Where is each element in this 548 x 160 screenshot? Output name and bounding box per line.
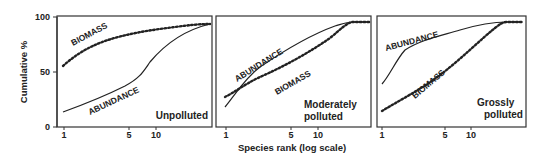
abundance-label: ABUNDANCE bbox=[384, 29, 440, 53]
xtick-5: 5 bbox=[126, 130, 131, 140]
xtick-5: 5 bbox=[288, 130, 293, 140]
condition-label-line1: Grossly bbox=[477, 97, 515, 108]
y-axis: 100 50 0 Cumulative % bbox=[18, 12, 57, 132]
biomass-label: BIOMASS bbox=[69, 20, 109, 48]
panel-moderately-polluted: 1 5 10 ABUNDANCE BIOMASS Moderately poll… bbox=[216, 16, 371, 140]
xtick-10: 10 bbox=[466, 130, 476, 140]
panel-grossly-polluted: 1 5 10 ABUNDANCE BIOMASS Grossly pollute… bbox=[377, 16, 526, 140]
biomass-curve bbox=[225, 22, 370, 97]
condition-label: Unpolluted bbox=[156, 110, 208, 121]
xtick-5: 5 bbox=[442, 130, 447, 140]
ytick-50: 50 bbox=[40, 67, 50, 77]
xtick-1: 1 bbox=[379, 130, 384, 140]
panel-unpolluted: 1 5 10 BIOMASS ABUNDANCE Unpolluted bbox=[57, 16, 212, 140]
biomass-label: BIOMASS bbox=[410, 67, 447, 100]
condition-label-line2: polluted bbox=[484, 109, 523, 120]
ytick-0: 0 bbox=[45, 122, 50, 132]
abundance-label: ABUNDANCE bbox=[87, 84, 141, 116]
condition-label-line1: Moderately bbox=[304, 99, 357, 110]
ytick-100: 100 bbox=[35, 12, 50, 22]
y-axis-label: Cumulative % bbox=[18, 40, 29, 103]
abundance-curve bbox=[225, 22, 370, 107]
x-axis-label: Species rank (log scale) bbox=[238, 142, 346, 153]
condition-label-line2: polluted bbox=[304, 111, 343, 122]
xtick-10: 10 bbox=[313, 130, 323, 140]
xtick-1: 1 bbox=[61, 130, 66, 140]
abc-curves-figure: 100 50 0 Cumulative % 1 5 10 BIOMASS ABU… bbox=[0, 0, 548, 160]
xtick-10: 10 bbox=[151, 130, 161, 140]
abundance-curve bbox=[382, 22, 522, 84]
biomass-label: BIOMASS bbox=[273, 68, 313, 97]
xtick-1: 1 bbox=[223, 130, 228, 140]
